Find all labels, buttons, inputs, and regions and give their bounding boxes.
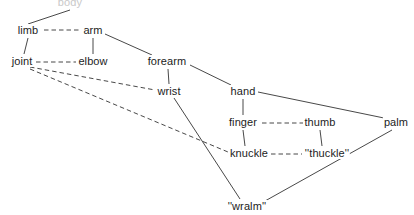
- edge-forearm-wrist: [168, 69, 169, 84]
- edge-hand-palm: [258, 92, 384, 118]
- node-limb[interactable]: limb: [17, 24, 40, 36]
- edge-arm-forearm: [105, 34, 152, 55]
- node-body[interactable]: body: [57, 0, 83, 8]
- edge-forearm-hand: [190, 65, 231, 85]
- edge-joint-wrist: [30, 67, 155, 90]
- node-wralm[interactable]: ''wralm'': [227, 200, 268, 212]
- node-joint[interactable]: joint: [11, 55, 34, 67]
- edge-finger-knuckle: [243, 130, 245, 146]
- node-forearm[interactable]: forearm: [147, 55, 188, 67]
- node-elbow[interactable]: elbow: [77, 55, 108, 67]
- edge-layer: [0, 0, 414, 215]
- node-arm[interactable]: arm: [82, 24, 103, 36]
- edge-thumb-thuckle: [320, 130, 322, 146]
- semantic-network-diagram: bodylimbarmjointelbowforearmwristhandfin…: [0, 0, 414, 215]
- edge-joint-knuckle: [30, 69, 228, 152]
- edge-body-limb: [28, 10, 70, 24]
- node-hand[interactable]: hand: [230, 85, 257, 97]
- node-thuckle[interactable]: ''thuckle'': [304, 147, 350, 159]
- node-knuckle[interactable]: knuckle: [229, 147, 269, 159]
- node-thumb[interactable]: thumb: [303, 116, 336, 128]
- node-finger[interactable]: finger: [228, 116, 258, 128]
- node-wrist[interactable]: wrist: [156, 85, 181, 97]
- node-palm[interactable]: palm: [383, 116, 409, 128]
- edge-palm-wralm: [265, 130, 392, 201]
- edge-limb-joint: [24, 38, 28, 54]
